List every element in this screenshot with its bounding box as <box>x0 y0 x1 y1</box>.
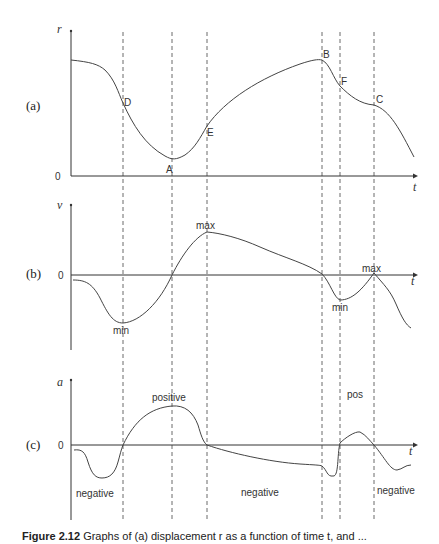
panel-c-tag: (c) <box>26 437 40 452</box>
arrow-icon <box>413 174 418 179</box>
point-A: A <box>166 164 173 175</box>
r-axis-label: r <box>57 22 62 36</box>
point-E: E <box>207 127 214 138</box>
guide-lines <box>123 32 374 520</box>
origin-a: 0 <box>55 171 61 182</box>
panel-a: (a) r 0 t D A E B F C <box>26 22 418 194</box>
point-B: B <box>323 49 330 60</box>
region-negative-1: negative <box>76 488 114 499</box>
axis-tip-icon <box>70 204 72 206</box>
caption-label: Figure 2.12 <box>22 530 80 542</box>
t-axis-label-a: t <box>413 180 417 194</box>
acceleration-curve <box>74 406 411 478</box>
v-axis-label: v <box>57 198 63 212</box>
axis-tip-icon <box>70 30 72 32</box>
displacement-curve <box>71 60 414 159</box>
figure-caption: Figure 2.12 Graphs of (a) displacement r… <box>22 530 367 542</box>
label-max-2: max <box>362 263 381 274</box>
a-axis-label: a <box>57 375 63 389</box>
region-negative-2: negative <box>241 487 279 498</box>
origin-b: 0 <box>58 270 64 281</box>
velocity-curve <box>73 232 411 328</box>
caption-text: Graphs of (a) displacement r as a functi… <box>83 530 367 542</box>
region-positive-1: positive <box>152 392 186 403</box>
panel-c: (c) a 0 t negative positive negative pos… <box>26 375 418 520</box>
point-F: F <box>341 76 347 87</box>
origin-c: 0 <box>58 440 64 451</box>
panel-b: (b) v 0 t min max min max <box>26 198 418 350</box>
panel-a-tag: (a) <box>26 98 40 113</box>
arrow-icon <box>413 443 418 448</box>
panel-b-tag: (b) <box>26 266 41 281</box>
point-C: C <box>376 94 383 105</box>
label-min-2: min <box>332 302 348 313</box>
region-pos-2: pos <box>347 389 363 400</box>
point-D: D <box>124 97 131 108</box>
figure-canvas: (a) r 0 t D A E B F C (b) v 0 t min max … <box>0 0 439 544</box>
t-axis-label-c: t <box>409 444 413 458</box>
label-min-1: min <box>113 325 129 336</box>
axis-tip-icon <box>70 379 72 381</box>
label-max-1: max <box>196 220 215 231</box>
region-negative-3: negative <box>377 485 415 496</box>
